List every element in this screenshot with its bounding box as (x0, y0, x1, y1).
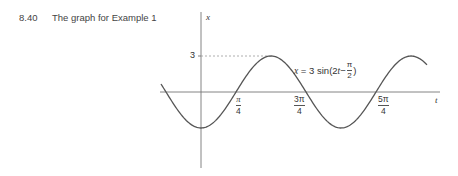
equation-label: x = 3 sin(2t − π2) (294, 61, 356, 80)
tick-label-5pi-4: 5π4 (378, 95, 389, 115)
x-axis-label: t (435, 96, 438, 105)
tick-label-pi-4: π4 (236, 95, 241, 115)
sine-graph (0, 0, 458, 176)
y-tick-label: 3 (190, 51, 195, 60)
tick-label-3pi-4: 3π4 (294, 95, 305, 115)
y-axis-label: x (206, 13, 210, 22)
